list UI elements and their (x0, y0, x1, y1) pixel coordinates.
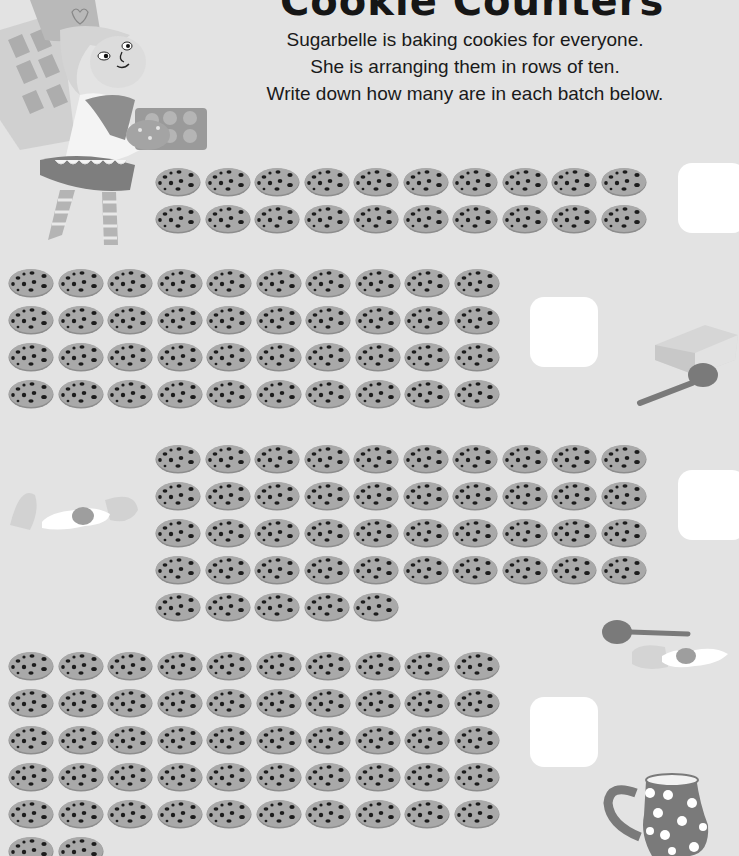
cookie-row (155, 591, 650, 628)
cookie-row (8, 761, 503, 798)
cookie-icon (305, 798, 351, 829)
cookie-icon (403, 203, 449, 234)
cookie-icon (454, 724, 500, 755)
cookie-icon (454, 798, 500, 829)
answer-box-batch-3[interactable] (678, 470, 739, 540)
cookie-icon (353, 517, 399, 548)
answer-box-batch-2[interactable] (530, 297, 598, 367)
cookie-icon (502, 203, 548, 234)
cookie-icon (205, 166, 251, 197)
butter-and-spoon-illustration (630, 305, 739, 410)
cookie-icon (157, 761, 203, 792)
cookie-icon (8, 267, 54, 298)
cookie-icon (157, 724, 203, 755)
cookie-icon (8, 724, 54, 755)
cookie-icon (256, 378, 302, 409)
cookie-icon (601, 443, 647, 474)
cookie-icon (502, 480, 548, 511)
cookie-row (8, 378, 503, 415)
answer-box-batch-4[interactable] (530, 697, 598, 767)
cookie-icon (353, 203, 399, 234)
cookie-icon (254, 517, 300, 548)
cookie-icon (305, 687, 351, 718)
cookie-icon (254, 443, 300, 474)
worksheet-title: Cookie Counters (280, 0, 664, 24)
cookie-icon (205, 517, 251, 548)
cookie-icon (305, 267, 351, 298)
cookie-row (155, 443, 650, 480)
cookie-icon (601, 554, 647, 585)
cookie-icon (254, 203, 300, 234)
cookie-row (155, 480, 650, 517)
cookie-icon (304, 554, 350, 585)
cookie-icon (305, 341, 351, 372)
cookie-icon (452, 480, 498, 511)
cookie-icon (107, 267, 153, 298)
cookie-icon (205, 554, 251, 585)
cookie-icon (355, 267, 401, 298)
cookie-icon (256, 650, 302, 681)
cookie-icon (107, 687, 153, 718)
cookie-icon (58, 687, 104, 718)
cookie-icon (107, 724, 153, 755)
cookie-icon (58, 650, 104, 681)
cookie-icon (8, 341, 54, 372)
cookie-icon (353, 443, 399, 474)
cookie-icon (305, 650, 351, 681)
cookie-icon (8, 650, 54, 681)
cookie-icon (353, 166, 399, 197)
cookie-icon (601, 203, 647, 234)
cookie-icon (254, 554, 300, 585)
cookie-icon (155, 166, 201, 197)
cookie-icon (454, 761, 500, 792)
cookie-icon (601, 166, 647, 197)
cookie-icon (58, 798, 104, 829)
cookie-icon (206, 724, 252, 755)
cookie-icon (205, 203, 251, 234)
cookie-icon (8, 378, 54, 409)
cookie-icon (8, 761, 54, 792)
cookie-icon (551, 203, 597, 234)
cookie-icon (256, 687, 302, 718)
cookie-icon (107, 798, 153, 829)
cookie-icon (254, 591, 300, 622)
cookie-icon (155, 443, 201, 474)
cookie-icon (353, 554, 399, 585)
cookie-icon (502, 554, 548, 585)
cookie-icon (58, 341, 104, 372)
cookie-icon (58, 378, 104, 409)
cookie-icon (355, 761, 401, 792)
cookie-row (8, 267, 503, 304)
answer-box-batch-1[interactable] (678, 163, 739, 233)
cookie-icon (107, 341, 153, 372)
cookie-icon (206, 687, 252, 718)
cookie-icon (454, 341, 500, 372)
cookie-icon (454, 304, 500, 335)
cookie-batch-1 (155, 166, 650, 240)
cookie-icon (155, 480, 201, 511)
cookie-row (8, 724, 503, 761)
cookie-icon (454, 267, 500, 298)
cookie-icon (206, 798, 252, 829)
cookie-row (8, 650, 503, 687)
cookie-icon (205, 480, 251, 511)
cookie-icon (404, 761, 450, 792)
cookie-icon (58, 267, 104, 298)
cookie-icon (157, 378, 203, 409)
cookie-icon (404, 304, 450, 335)
cookie-icon (355, 378, 401, 409)
cookie-icon (304, 591, 350, 622)
cookie-icon (454, 650, 500, 681)
instruction-line-3: Write down how many are in each batch be… (230, 80, 700, 107)
cookie-icon (155, 591, 201, 622)
cookie-icon (256, 724, 302, 755)
cookie-icon (304, 443, 350, 474)
cookie-icon (157, 687, 203, 718)
cookie-row (8, 304, 503, 341)
instruction-line-1: Sugarbelle is baking cookies for everyon… (230, 26, 700, 53)
cookie-icon (305, 304, 351, 335)
cookie-icon (8, 304, 54, 335)
cookie-icon (107, 650, 153, 681)
cookie-icon (155, 517, 201, 548)
cookie-row (155, 554, 650, 591)
